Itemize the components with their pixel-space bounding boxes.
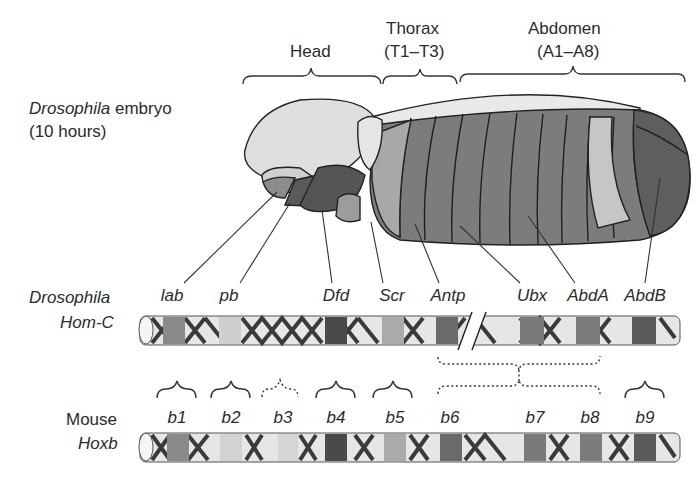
mouse-braces: [157, 381, 664, 398]
gene-b7: b7: [526, 408, 545, 428]
hoxb-label-cluster: Hoxb: [78, 434, 118, 454]
hoxb-label-species: Mouse: [66, 410, 117, 430]
homc-label-species: Drosophila: [29, 288, 110, 308]
gene-pb: pb: [220, 286, 239, 306]
gene-ubx: Ubx: [517, 286, 547, 306]
gene-b3: b3: [274, 408, 293, 428]
gene-b2: b2: [222, 408, 241, 428]
gene-antp: Antp: [431, 286, 466, 306]
embryo-body: [245, 95, 690, 245]
gene-b5: b5: [386, 408, 405, 428]
hoxb-chromosome: [139, 433, 680, 462]
gene-b6: b6: [441, 408, 460, 428]
homc-chromosome: [139, 312, 680, 350]
homc-label-complex: Hom-C: [60, 313, 114, 333]
region-braces: [243, 66, 685, 84]
gene-b1: b1: [168, 408, 187, 428]
gene-b4: b4: [327, 408, 346, 428]
gene-dfd: Dfd: [323, 286, 349, 306]
gene-abda: AbdA: [567, 286, 609, 306]
gene-b9: b9: [636, 408, 655, 428]
gene-lab: lab: [161, 286, 184, 306]
gene-b8: b8: [581, 408, 600, 428]
gene-scr: Scr: [379, 286, 405, 306]
gene-abdb: AbdB: [624, 286, 666, 306]
dotted-braces: [262, 356, 600, 397]
